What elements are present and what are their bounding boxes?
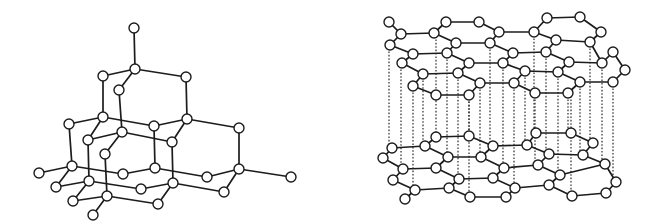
graphite-atom xyxy=(464,131,474,141)
graphite-lattice-diagram xyxy=(0,0,653,221)
graphite-atom xyxy=(464,58,474,68)
graphite-atom xyxy=(465,192,475,202)
graphite-atom xyxy=(429,28,439,38)
graphite-atom xyxy=(533,160,543,170)
graphite-atom xyxy=(551,35,561,45)
graphite-atom xyxy=(398,164,408,174)
graphite-atom xyxy=(567,191,577,201)
graphite-atom xyxy=(529,27,539,37)
graphite-atom xyxy=(597,58,607,68)
graphite-atom xyxy=(578,150,588,160)
graphite-atom xyxy=(442,48,452,58)
graphite-atom xyxy=(488,173,498,183)
graphite-atoms xyxy=(378,12,630,204)
graphite-atom xyxy=(541,47,551,57)
graphite-atom xyxy=(510,183,520,193)
graphite-atom xyxy=(388,175,398,185)
graphite-atom xyxy=(454,174,464,184)
graphite-atom xyxy=(476,152,486,162)
graphite-atom xyxy=(485,38,495,48)
graphite-atom xyxy=(553,67,563,77)
graphite-atom xyxy=(520,66,530,76)
graphite-atom xyxy=(408,81,418,91)
graphite-atom xyxy=(475,78,485,88)
graphite-atom xyxy=(611,177,621,187)
graphite-atom xyxy=(575,77,585,87)
graphite-atom xyxy=(474,17,484,27)
graphite-atom xyxy=(408,49,418,59)
graphite-atom xyxy=(544,180,554,190)
graphite-atom xyxy=(564,57,574,67)
graphite-atom xyxy=(444,183,454,193)
graphite-atom xyxy=(464,90,474,100)
graphite-atom xyxy=(385,40,395,50)
graphite-atom xyxy=(378,153,388,163)
graphite-atom xyxy=(441,17,451,27)
graphite-atom xyxy=(530,88,540,98)
graphite-atom xyxy=(508,48,518,58)
graphite-atom xyxy=(608,47,618,57)
graphite-atom xyxy=(588,138,598,148)
graphite-atom xyxy=(600,159,610,169)
graphite-atom xyxy=(494,27,504,37)
graphite-atom xyxy=(620,65,630,75)
graphite-atom xyxy=(509,78,519,88)
graphite-atom xyxy=(596,27,606,37)
graphite-atom xyxy=(575,12,585,22)
graphite-atom xyxy=(608,77,618,87)
graphite-bond xyxy=(560,164,605,175)
graphite-atom xyxy=(488,141,498,151)
graphite-atom xyxy=(384,17,394,27)
graphite-atom xyxy=(420,141,430,151)
graphite-atom xyxy=(522,140,532,150)
graphite-atom xyxy=(400,194,410,204)
graphite-atom xyxy=(555,170,565,180)
graphite-atom xyxy=(585,37,595,47)
graphite-atom xyxy=(397,58,407,68)
graphite-atom xyxy=(431,132,441,142)
graphite-atom xyxy=(499,163,509,173)
graphite-atom xyxy=(542,13,552,23)
graphite-atom xyxy=(531,128,541,138)
graphite-atom xyxy=(410,185,420,195)
graphite-atom xyxy=(453,68,463,78)
graphite-atom xyxy=(443,152,453,162)
graphite-atom xyxy=(566,128,576,138)
graphite-atom xyxy=(451,38,461,48)
graphite-atom xyxy=(501,192,511,202)
graphite-atom xyxy=(544,149,554,159)
graphite-atom xyxy=(601,188,611,198)
graphite-atom xyxy=(431,90,441,100)
graphite-atom xyxy=(431,163,441,173)
figure-canvas xyxy=(0,0,653,221)
graphite-atom xyxy=(563,88,573,98)
graphite-atom xyxy=(418,69,428,79)
graphite-atom xyxy=(387,143,397,153)
graphite-atom xyxy=(498,58,508,68)
graphite-atom xyxy=(396,29,406,39)
